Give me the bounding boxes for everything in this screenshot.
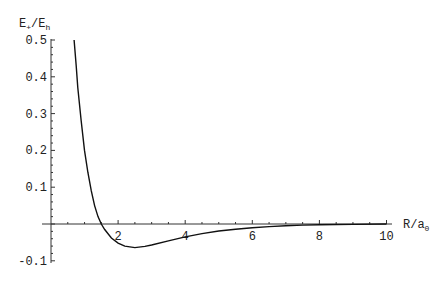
x-tick-label: 8 (316, 230, 323, 244)
y-tick-label: 0.2 (25, 144, 47, 158)
x-axis-label: R/a0 (403, 218, 430, 233)
x-tick-label: 6 (249, 230, 256, 244)
chart: 0.50.40.30.20.1-0.1 246810 E+/Eh R/a0 (0, 0, 446, 282)
x-tick-label: 10 (379, 230, 393, 244)
y-axis-label: E+/Eh (19, 17, 50, 32)
y-tick-label: 0.1 (25, 181, 47, 195)
y-tick-label: 0.3 (25, 108, 47, 122)
y-tick-label: 0.4 (25, 71, 47, 85)
y-tick-label: -0.1 (18, 255, 47, 269)
energy-curve (74, 40, 386, 248)
y-ticks: 0.50.40.30.20.1-0.1 (18, 34, 55, 269)
y-tick-label: 0.5 (25, 34, 47, 48)
